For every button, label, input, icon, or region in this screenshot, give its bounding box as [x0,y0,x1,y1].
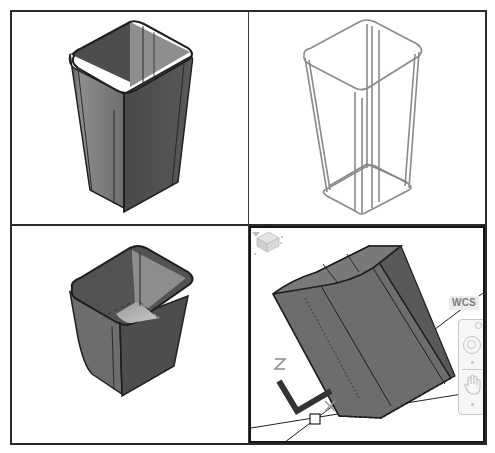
navbar-close-icon[interactable] [475,322,482,329]
pan-hand-icon[interactable] [463,374,483,396]
chevron-down-icon[interactable] [251,228,261,240]
pan-dropdown-icon[interactable] [471,403,474,406]
shaded-bin-model [12,12,249,226]
ucs-selector-wcs[interactable]: WCS [449,296,479,310]
navbar-divider [462,369,482,370]
steering-wheel-dropdown-icon[interactable] [471,361,474,364]
viewport-bottom-left[interactable] [12,226,249,443]
navigation-bar [458,319,485,415]
viewport-top-left[interactable] [12,12,249,226]
wireframe-bin-model [249,12,485,226]
viewport-top-right[interactable] [249,12,485,226]
wcs-label: WCS [452,297,476,308]
shaded-bin-top-view-model [12,226,249,443]
viewport-bottom-right-active[interactable]: WCS [249,226,485,443]
ucs-icon [269,353,339,423]
steering-wheel-icon[interactable] [463,336,481,354]
viewport-frame: WCS [10,10,487,445]
